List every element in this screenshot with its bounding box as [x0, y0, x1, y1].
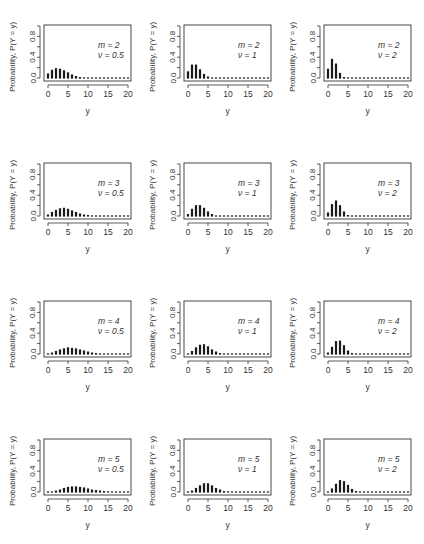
y-tick-label: 0.4 — [29, 465, 38, 477]
x-tick-label: 20 — [403, 365, 413, 375]
x-tick-label: 20 — [123, 89, 133, 99]
y-tick-label: 0.4 — [309, 327, 318, 339]
bar — [79, 487, 81, 493]
bar — [55, 351, 57, 355]
x-tick-label: 20 — [263, 89, 273, 99]
bar — [55, 210, 57, 217]
bar — [103, 491, 105, 493]
panel-m4-v2: 05101520y0.00.40.8Probability, P(Y = y)m… — [288, 298, 413, 392]
bar — [227, 215, 229, 216]
bar — [239, 491, 241, 492]
bar — [235, 353, 237, 354]
bar — [191, 351, 193, 355]
bar — [331, 488, 333, 492]
bar — [363, 491, 365, 492]
x-tick-label: 5 — [66, 503, 71, 513]
bars — [47, 208, 129, 217]
bar — [199, 69, 201, 78]
bar — [71, 74, 73, 78]
bar — [263, 491, 265, 492]
annotation-nu: ν = 0.5 — [98, 188, 124, 198]
bar — [267, 77, 269, 78]
bar — [339, 205, 341, 216]
annotation-m: m = 2 — [98, 40, 120, 50]
bar — [327, 69, 329, 79]
bar — [55, 68, 57, 78]
bars — [327, 200, 409, 216]
y-tick-label: 0.0 — [169, 210, 178, 222]
bar — [243, 491, 245, 492]
y-axis-label: Probability, P(Y = y) — [148, 160, 157, 231]
bar — [343, 345, 345, 354]
bar — [115, 353, 117, 354]
bar — [55, 491, 57, 493]
bar — [387, 353, 389, 354]
bar — [203, 344, 205, 354]
bar — [191, 491, 193, 493]
bar — [95, 77, 97, 78]
bar — [75, 348, 77, 354]
bar — [123, 77, 125, 78]
bar — [91, 353, 93, 355]
bar — [355, 491, 357, 493]
y-tick-label: 0.4 — [169, 189, 178, 201]
bar — [47, 215, 49, 217]
y-axis: 0.00.40.8 — [309, 26, 321, 84]
x-tick-label: 0 — [186, 89, 191, 99]
bar — [207, 346, 209, 354]
bar — [375, 215, 377, 216]
bar — [359, 353, 361, 354]
y-tick-label: 0.8 — [29, 168, 38, 180]
y-axis: 0.00.40.8 — [309, 440, 321, 498]
panel-m4-v1: 05101520y0.00.40.8Probability, P(Y = y)m… — [148, 298, 273, 392]
x-axis-label: y — [225, 382, 230, 392]
bar — [243, 215, 245, 216]
x-tick-label: 15 — [103, 89, 113, 99]
y-axis: 0.00.40.8 — [309, 164, 321, 222]
y-tick-label: 0.8 — [309, 444, 318, 456]
annotation-m: m = 3 — [98, 178, 120, 188]
panel-m5-v2: 05101520y0.00.40.8Probability, P(Y = y)m… — [288, 436, 413, 530]
bar — [355, 215, 357, 216]
x-axis: 05101520 — [46, 361, 133, 375]
x-tick-label: 20 — [403, 89, 413, 99]
y-tick-label: 0.8 — [309, 168, 318, 180]
bar — [207, 77, 209, 79]
bar — [387, 491, 389, 492]
x-tick-label: 10 — [83, 227, 93, 237]
bar — [207, 211, 209, 216]
bar — [379, 77, 381, 78]
bar — [351, 489, 353, 493]
bar — [343, 77, 345, 79]
y-axis-label: Probability, P(Y = y) — [288, 436, 297, 507]
y-tick-label: 0.0 — [169, 486, 178, 498]
x-tick-label: 15 — [243, 89, 253, 99]
bar — [79, 77, 81, 79]
y-tick-label: 0.0 — [29, 348, 38, 360]
bar — [267, 491, 269, 492]
annotation-m: m = 4 — [238, 316, 260, 326]
bar — [255, 215, 257, 216]
y-axis-label: Probability, P(Y = y) — [8, 298, 17, 369]
bar — [255, 491, 257, 492]
bar — [123, 353, 125, 354]
bar — [331, 347, 333, 355]
bar — [51, 70, 53, 79]
x-tick-label: 10 — [363, 227, 373, 237]
bar — [99, 491, 101, 493]
x-axis: 05101520 — [186, 361, 273, 375]
x-tick-label: 15 — [243, 365, 253, 375]
bar — [247, 215, 249, 216]
bar — [267, 215, 269, 216]
bar — [59, 349, 61, 354]
x-axis: 05101520 — [46, 499, 133, 513]
x-tick-label: 5 — [66, 89, 71, 99]
bar — [51, 212, 53, 217]
bar — [215, 215, 217, 216]
y-axis-label: Probability, P(Y = y) — [288, 160, 297, 231]
x-tick-label: 15 — [243, 227, 253, 237]
bar — [235, 77, 237, 78]
bar — [215, 488, 217, 493]
bar — [223, 353, 225, 354]
x-tick-label: 5 — [66, 227, 71, 237]
